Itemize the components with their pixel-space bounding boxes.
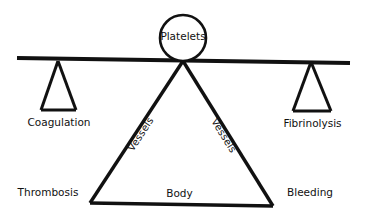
vessels-left-label: Vessels xyxy=(126,115,156,153)
left-pan-left-edge xyxy=(41,61,58,110)
body-label: Body xyxy=(166,187,193,199)
body-triangle-base xyxy=(90,203,273,206)
coagulation-label: Coagulation xyxy=(28,116,91,128)
thrombosis-label: Thrombosis xyxy=(17,186,79,198)
fibrinolysis-label: Fibrinolysis xyxy=(283,117,341,129)
bleeding-label: Bleeding xyxy=(287,186,333,198)
left-pan-triangle xyxy=(41,61,76,110)
vessels-right-label: Vessels xyxy=(209,117,238,155)
platelets-label: Platelets xyxy=(160,30,205,42)
diagram-canvas: Platelets Coagulation Fibrinolysis Throm… xyxy=(0,0,365,219)
right-pan-right-edge xyxy=(311,62,331,111)
body-triangle xyxy=(90,61,273,206)
left-pan-right-edge xyxy=(58,61,76,110)
hemostasis-balance-diagram: Platelets Coagulation Fibrinolysis Throm… xyxy=(0,0,365,219)
right-pan-left-edge xyxy=(293,62,311,111)
right-pan-triangle xyxy=(293,62,331,111)
